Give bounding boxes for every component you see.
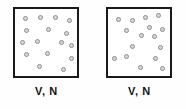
gas-particle <box>160 66 165 71</box>
gas-particle <box>130 44 135 49</box>
gas-particle <box>37 64 42 69</box>
gas-particle <box>53 15 58 20</box>
gas-particle <box>143 15 148 20</box>
gas-particle <box>152 34 157 39</box>
left-container-label: V, N <box>0 85 93 97</box>
gas-particle <box>116 17 121 22</box>
gas-particle <box>130 18 135 23</box>
gas-particle <box>24 28 29 33</box>
gas-particle <box>38 15 43 20</box>
gas-particle <box>139 33 144 38</box>
gas-particle <box>160 27 165 32</box>
left-container-panel: V, N <box>0 0 93 109</box>
right-container-panel: V, N <box>93 0 186 109</box>
figure-canvas: V, N V, N <box>0 0 186 109</box>
gas-particle <box>124 28 129 33</box>
gas-particle <box>147 25 152 30</box>
gas-particle <box>59 40 64 45</box>
gas-particle <box>153 56 158 61</box>
right-container-label: V, N <box>93 85 186 97</box>
gas-particle <box>69 43 74 48</box>
gas-container-box-left <box>13 7 79 78</box>
gas-particle <box>61 67 66 72</box>
gas-particle <box>138 65 143 70</box>
gas-container-box-right <box>106 7 172 78</box>
gas-particle <box>20 40 25 45</box>
particle-field-left <box>15 9 77 76</box>
gas-particle <box>23 16 28 21</box>
gas-particle <box>69 56 74 61</box>
gas-particle <box>156 13 161 18</box>
gas-particle <box>64 31 69 36</box>
gas-particle <box>112 56 117 61</box>
gas-particle <box>124 54 129 59</box>
gas-particle <box>35 39 40 44</box>
particle-field-right <box>108 9 170 76</box>
gas-particle <box>24 52 29 57</box>
gas-particle <box>45 51 50 56</box>
gas-particle <box>158 45 163 50</box>
gas-particle <box>67 18 72 23</box>
gas-particle <box>46 27 51 32</box>
